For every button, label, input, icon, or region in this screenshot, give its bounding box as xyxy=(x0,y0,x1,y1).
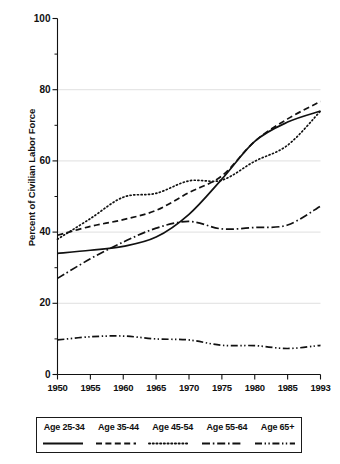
legend-label-3: Age 45-54 xyxy=(152,422,193,432)
y-tick-label: 100 xyxy=(15,14,51,24)
legend-swatch-2 xyxy=(94,439,138,448)
series-line-age-65 xyxy=(58,336,321,349)
legend-label-5: Age 65+ xyxy=(261,422,294,432)
legend-label-1: Age 25-34 xyxy=(44,422,85,432)
legend-swatch-5 xyxy=(253,439,297,448)
chart-figure: Percent of Civilian Labor Force 02040608… xyxy=(0,0,340,464)
legend-label-2: Age 35-44 xyxy=(98,422,139,432)
y-tick-label: 80 xyxy=(15,85,51,95)
legend-swatch-4 xyxy=(200,439,244,448)
y-tick-label: 60 xyxy=(15,156,51,166)
legend-swatch-1 xyxy=(41,439,85,448)
legend-swatch-3 xyxy=(147,439,191,448)
legend-label-4: Age 55-64 xyxy=(207,422,248,432)
legend-label-row: Age 25-34Age 35-44Age 45-54Age 55-64Age … xyxy=(37,422,301,432)
series-line-age-45-54 xyxy=(58,111,321,239)
x-tick-label: 1993 xyxy=(301,383,340,393)
plot-canvas xyxy=(0,0,340,464)
y-tick-label: 0 xyxy=(15,370,51,380)
legend-swatch-row xyxy=(37,439,301,448)
chart-legend: Age 25-34Age 35-44Age 45-54Age 55-64Age … xyxy=(36,417,302,453)
y-tick-label: 20 xyxy=(15,298,51,308)
series-line-age-55-64 xyxy=(58,206,321,278)
y-tick-label: 40 xyxy=(15,227,51,237)
